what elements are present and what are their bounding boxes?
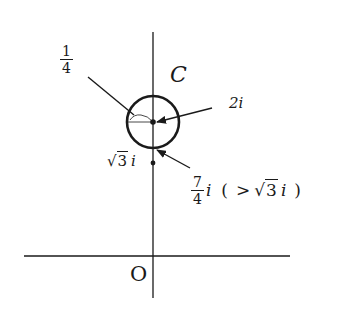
diagram-canvas bbox=[0, 0, 337, 315]
cmp-unit: i bbox=[281, 182, 286, 199]
sqrt-symbol: √ bbox=[107, 152, 117, 170]
center-label: 2i bbox=[229, 96, 243, 111]
lowest-denominator: 4 bbox=[193, 191, 202, 206]
paren-close: ) bbox=[294, 182, 301, 199]
center-arrow bbox=[157, 108, 212, 122]
lowest-numerator: 7 bbox=[191, 175, 204, 191]
radius-label: 1 4 bbox=[60, 44, 73, 75]
paren-open: ( bbox=[221, 182, 228, 199]
radius-numerator: 1 bbox=[60, 44, 73, 60]
radius-brace-arc bbox=[130, 115, 152, 121]
circle-label: C bbox=[170, 64, 187, 86]
radius-leader-line bbox=[88, 77, 134, 115]
cmp-radicand: 3 bbox=[265, 179, 278, 200]
sqrt3i-unit: i bbox=[131, 152, 136, 170]
sqrt-radicand: 3 bbox=[117, 151, 129, 170]
lowest-point-arrow bbox=[157, 150, 190, 168]
complex-plane-diagram: 1 4 C 2i √3i 7 4 i ( > √3 i ) O bbox=[0, 0, 337, 315]
lowest-unit: i bbox=[206, 182, 211, 199]
lowest-point-label: 7 4 i ( > √3 i ) bbox=[191, 175, 301, 206]
origin-label: O bbox=[130, 264, 147, 285]
greater-than: > bbox=[236, 182, 250, 199]
sqrt3i-point bbox=[151, 161, 156, 166]
center-point bbox=[150, 119, 156, 125]
radius-denominator: 4 bbox=[62, 60, 71, 75]
cmp-sqrt-symbol: √ bbox=[254, 180, 265, 200]
sqrt3i-label: √3i bbox=[107, 154, 136, 169]
